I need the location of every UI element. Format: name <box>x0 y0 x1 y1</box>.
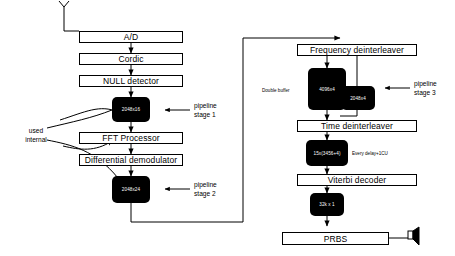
note-pipeline-stage-2-line1: pipeline <box>194 180 217 189</box>
note-double-buffer: Double buffer <box>262 86 290 95</box>
memory-2048x16[interactable]: 2048x16 <box>112 97 150 122</box>
note-used-internal-line2: internal <box>14 135 58 144</box>
note-pipeline-stage-1-line1: pipeline <box>194 101 217 110</box>
block-prbs[interactable]: PRBS <box>282 232 389 245</box>
block-null-detector[interactable]: NULL detector <box>79 75 183 87</box>
memory-delay[interactable]: 15x(3456+4) <box>306 140 348 166</box>
memory-2048x24[interactable]: 2048x24 <box>112 176 150 203</box>
speaker-icon <box>408 227 419 245</box>
block-viterbi-decoder[interactable]: Viterbi decoder <box>297 174 417 186</box>
note-pipeline-stage-3-line2: stage 3 <box>414 88 436 97</box>
block-time-deinterleaver[interactable]: Time deinterleaver <box>297 120 417 132</box>
block-fft-processor[interactable]: FFT Processor <box>79 132 183 144</box>
block-cordic[interactable]: Cordic <box>79 53 183 65</box>
memory-32kx1[interactable]: 32k x 1 <box>310 193 344 216</box>
block-differential-demodulator[interactable]: Differential demodulator <box>79 154 183 166</box>
note-pipeline-stage-2-line2: stage 2 <box>194 189 216 198</box>
note-pipeline-stage-3-line1: pipeline <box>414 79 437 88</box>
note-used-internal-line1: used <box>14 126 58 135</box>
block-adc[interactable]: A/D <box>79 31 183 43</box>
antenna-icon <box>59 1 79 31</box>
block-diagram-canvas: A/D Cordic NULL detector 2048x16 FFT Pro… <box>0 0 455 256</box>
block-frequency-deinterleaver[interactable]: Frequency deinterleaver <box>297 44 417 56</box>
memory-2048x4[interactable]: 2048x4 <box>341 86 375 110</box>
note-pipeline-stage-1-line2: stage 1 <box>194 110 216 119</box>
note-every-delay: Every delay+1CU <box>352 149 388 158</box>
